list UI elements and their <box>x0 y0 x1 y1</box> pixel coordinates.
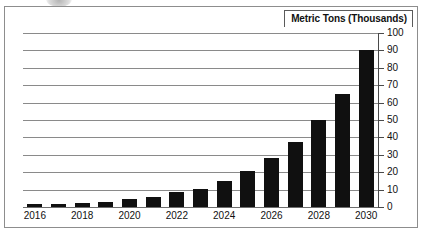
axis-label-70: 70 <box>387 80 398 90</box>
bar-2027 <box>288 142 303 207</box>
category-axis: 20162018202020222024202620282030 <box>23 209 378 225</box>
axis-tick-20 <box>378 172 384 173</box>
gridline-0 <box>23 207 378 208</box>
axis-label-100: 100 <box>387 28 404 38</box>
chart-title-box: Metric Tons (Thousands) <box>284 10 413 27</box>
category-label-2022: 2022 <box>166 210 188 221</box>
axis-tick-0 <box>378 207 384 208</box>
axis-tick-100 <box>378 33 384 34</box>
bar-2016 <box>27 204 42 207</box>
axis-tick-30 <box>378 155 384 156</box>
axis-label-50: 50 <box>387 115 398 125</box>
category-label-2018: 2018 <box>71 210 93 221</box>
bar-series <box>23 33 378 207</box>
category-label-2024: 2024 <box>213 210 235 221</box>
bar-2018 <box>75 203 90 207</box>
axis-label-90: 90 <box>387 45 398 55</box>
bar-2030 <box>359 50 374 207</box>
bar-2025 <box>240 171 255 207</box>
bar-2029 <box>335 94 350 207</box>
value-axis: 1009080706050403020100 <box>378 33 424 207</box>
axis-tick-60 <box>378 103 384 104</box>
category-label-2016: 2016 <box>24 210 46 221</box>
bar-2019 <box>98 202 113 207</box>
axis-tick-90 <box>378 50 384 51</box>
category-label-2020: 2020 <box>118 210 140 221</box>
axis-label-20: 20 <box>387 167 398 177</box>
bar-2022 <box>169 192 184 207</box>
axis-tick-80 <box>378 68 384 69</box>
category-label-2030: 2030 <box>355 210 377 221</box>
bar-2020 <box>122 199 137 207</box>
bar-2028 <box>311 120 326 207</box>
axis-label-40: 40 <box>387 132 398 142</box>
axis-tick-10 <box>378 190 384 191</box>
bar-2021 <box>146 197 161 207</box>
axis-tick-70 <box>378 85 384 86</box>
axis-tick-40 <box>378 137 384 138</box>
axis-label-80: 80 <box>387 63 398 73</box>
category-label-2026: 2026 <box>260 210 282 221</box>
bar-2023 <box>193 189 208 207</box>
axis-label-30: 30 <box>387 150 398 160</box>
bar-2024 <box>217 181 232 207</box>
page-title: Metric Tons (Thousands) <box>291 13 407 24</box>
axis-label-0: 0 <box>387 202 393 212</box>
category-label-2028: 2028 <box>308 210 330 221</box>
axis-label-60: 60 <box>387 98 398 108</box>
axis-tick-50 <box>378 120 384 121</box>
bar-2026 <box>264 158 279 207</box>
axis-label-10: 10 <box>387 185 398 195</box>
bar-2017 <box>51 204 66 207</box>
chart-frame: Metric Tons (Thousands) 1009080706050403… <box>4 6 418 228</box>
